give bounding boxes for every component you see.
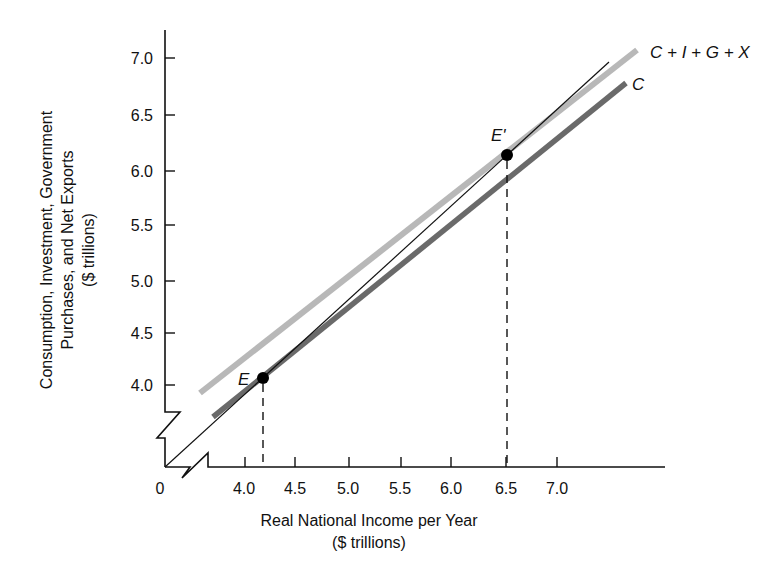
point-e: [257, 372, 269, 384]
y-tick-label: 5.5: [131, 217, 153, 234]
y-axis-title-line-3: ($ trillions): [80, 213, 97, 287]
point-e-prime: [501, 149, 513, 161]
x-tick-label: 4.0: [233, 480, 255, 497]
point-e-label: E: [238, 370, 250, 389]
aggregate-expenditure-chart: 7.0 6.5 6.0 5.5 5.0 4.5 4.0 0 4.0 4.5 5.…: [0, 0, 773, 583]
c-series-label: C: [632, 75, 645, 94]
x-tick-labels: 0 4.0 4.5 5.0 5.5 6.0 6.5 7.0: [156, 480, 569, 497]
x-origin-label: 0: [156, 480, 165, 497]
y-tick-label: 6.5: [131, 107, 153, 124]
y-tick-label: 5.0: [131, 273, 153, 290]
x-axis-title: Real National Income per Year: [260, 512, 478, 529]
y-tick-label: 6.0: [131, 163, 153, 180]
x-tick-label: 7.0: [546, 480, 568, 497]
cigx-line: [200, 50, 637, 393]
x-axis-units: ($ trillions): [332, 534, 406, 551]
x-tick-label: 5.0: [337, 480, 359, 497]
x-tick-label: 6.5: [495, 480, 517, 497]
y-axis-title-line-1: Consumption, Investment, Government: [38, 110, 55, 389]
x-tick-label: 4.5: [284, 480, 306, 497]
x-axis: [165, 453, 665, 478]
point-e-prime-label: E': [491, 126, 506, 145]
y-axis: [157, 30, 180, 467]
x-tick-label: 6.0: [440, 480, 462, 497]
y-tick-label: 7.0: [131, 50, 153, 67]
forty-five-degree-line: [165, 62, 609, 467]
x-tick-label: 5.5: [389, 480, 411, 497]
y-tick-labels: 7.0 6.5 6.0 5.5 5.0 4.5 4.0: [131, 50, 153, 394]
cigx-series-label: C + I + G + X: [650, 43, 750, 62]
y-axis-title-line-2: Purchases, and Net Exports: [59, 150, 76, 349]
y-axis-title: Consumption, Investment, Government Purc…: [38, 110, 97, 389]
y-tick-label: 4.0: [131, 377, 153, 394]
y-tick-label: 4.5: [131, 325, 153, 342]
